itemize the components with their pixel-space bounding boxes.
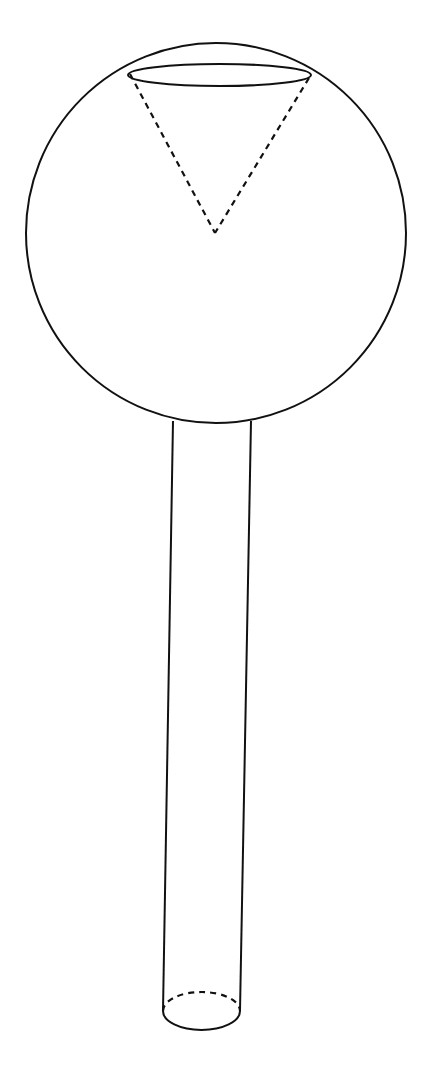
sphere-on-cylinder-diagram xyxy=(0,0,424,1084)
base-ellipse-front xyxy=(163,1011,240,1030)
cylinder-right-edge xyxy=(240,421,251,1011)
base-ellipse-back xyxy=(163,992,240,1011)
cylinder-left-edge xyxy=(163,421,173,1011)
